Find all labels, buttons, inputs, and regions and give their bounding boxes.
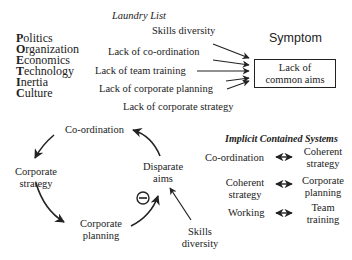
implicit-right: Corporate planning	[298, 175, 348, 199]
symptom-box: Lack of common aims	[254, 59, 336, 88]
symptom-title: Symptom	[269, 31, 322, 45]
implicit-right: Coherent strategy	[298, 146, 348, 170]
laundry-item: Lack of corporate planning	[99, 83, 213, 95]
poetic-list: Politics Organization Economics Technolo…	[16, 33, 79, 99]
cycle-node-planning: Corporate planning	[74, 218, 128, 242]
laundry-item: Skills diversity	[152, 25, 215, 37]
symptom-box-line: common aims	[255, 74, 335, 86]
cycle-node-strategy: Corporate strategy	[12, 166, 60, 190]
cycle-node-coordination: Co-ordination	[65, 124, 124, 136]
symptom-box-line: Lack of	[255, 62, 335, 74]
external-skills-diversity: Skills diversity	[180, 226, 220, 250]
cycle-node-disparate-aims: Disparate aims	[138, 161, 188, 185]
laundry-list-title: Laundry List	[112, 10, 166, 22]
laundry-item: Lack of co-ordination	[108, 46, 200, 58]
laundry-item: Lack of team training	[95, 65, 186, 77]
poetic-item: Culture	[16, 88, 79, 99]
laundry-item: Lack of corporate strategy	[123, 101, 234, 113]
implicit-title: Implicit Contained Systems	[225, 133, 338, 145]
implicit-left: Co-ordination	[205, 152, 264, 164]
implicit-left: Coherent strategy	[220, 177, 270, 201]
implicit-left: Working	[228, 207, 264, 219]
implicit-double-arrows	[276, 157, 292, 213]
implicit-right: Team training	[298, 202, 348, 226]
